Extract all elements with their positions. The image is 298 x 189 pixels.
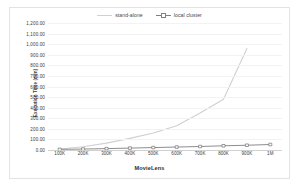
gridline [48, 139, 282, 140]
gridline [48, 97, 282, 98]
x-axis-tick-label: 700K [195, 151, 206, 156]
x-axis-tick-label: 900K [242, 151, 253, 156]
plot-wrapper: 1,200.001,100.001,000.00900.00800.00700.… [22, 23, 282, 161]
y-axis-tick-label: 200.00 [30, 126, 45, 131]
legend-item-local-cluster: local cluster [156, 12, 202, 19]
series-marker-local-cluster [175, 146, 178, 149]
series-marker-local-cluster [128, 147, 131, 150]
series-marker-local-cluster [152, 146, 155, 149]
gridline [48, 118, 282, 119]
legend-line-icon-stand-alone [97, 12, 112, 19]
x-axis-tick-label: 300K [101, 151, 112, 156]
chart-legend: stand-alone local cluster [10, 12, 289, 19]
gridline [48, 65, 282, 66]
series-marker-local-cluster [199, 145, 202, 148]
y-axis-tick-label: 800.00 [30, 63, 45, 68]
y-axis-tick-label: 300.00 [30, 116, 45, 121]
y-axis-tick-label: 600.00 [30, 84, 45, 89]
gridline [48, 44, 282, 45]
legend-line-marker-icon-local-cluster [156, 12, 171, 19]
x-axis-tick-label: 500K [148, 151, 159, 156]
chart-container: stand-alone local cluster Execution Time… [9, 7, 290, 179]
y-axis-tick-label: 100.00 [30, 137, 45, 142]
plot-area [48, 23, 282, 150]
gridline [48, 87, 282, 88]
x-axis-tick-labels: 100K200K300K400K500K600K700K800K900K1M [48, 150, 282, 161]
gridline [48, 23, 282, 24]
series-marker-local-cluster [245, 144, 248, 147]
x-axis-tick-label: 400K [125, 151, 136, 156]
x-axis-tick-label: 1M [267, 151, 273, 156]
x-axis-tick-label: 100K [54, 151, 65, 156]
y-axis-tick-label: 0.00 [36, 148, 45, 153]
y-axis-tick-label: 500.00 [30, 95, 45, 100]
x-axis-tick-label: 200K [78, 151, 89, 156]
y-axis-tick-label: 400.00 [30, 105, 45, 110]
x-axis-tick-label: 800K [218, 151, 229, 156]
gridline [48, 55, 282, 56]
y-axis-tick-label: 1,100.00 [26, 31, 45, 36]
legend-label-local-cluster: local cluster [174, 12, 202, 19]
y-axis-tick-labels: 1,200.001,100.001,000.00900.00800.00700.… [22, 23, 47, 150]
x-axis-title: MovieLens [10, 165, 289, 171]
legend-label-stand-alone: stand-alone [115, 12, 143, 19]
gridline [48, 108, 282, 109]
x-axis-tick-label: 600K [171, 151, 182, 156]
legend-item-stand-alone: stand-alone [97, 12, 143, 19]
y-axis-tick-label: 1,200.00 [26, 21, 45, 26]
series-marker-local-cluster [269, 143, 272, 146]
gridline [48, 34, 282, 35]
series-line-stand-alone [60, 48, 247, 149]
y-axis-tick-label: 700.00 [30, 73, 45, 78]
series-marker-local-cluster [222, 144, 225, 147]
gridline [48, 129, 282, 130]
y-axis-tick-label: 1,000.00 [26, 42, 45, 47]
gridline [48, 76, 282, 77]
y-axis-tick-label: 900.00 [30, 52, 45, 57]
